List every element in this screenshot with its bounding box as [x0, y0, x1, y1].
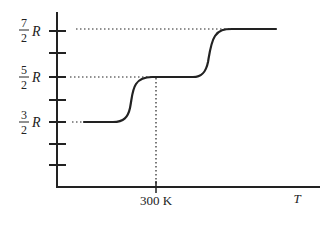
- guide-lines: [70, 29, 230, 186]
- y-label-3-2-r: 3 2 R: [19, 108, 41, 137]
- fraction-denominator: 2: [21, 78, 27, 92]
- fraction-numerator: 5: [21, 63, 27, 77]
- axes: [56, 12, 320, 188]
- r-symbol: R: [31, 115, 41, 130]
- y-label-7-2-r: 7 2 R: [19, 16, 41, 45]
- fraction-numerator: 7: [21, 16, 27, 30]
- x-tick-label-300k: 300 K: [140, 193, 173, 208]
- heat-capacity-diagram: 7 2 R 5 2 R 3 2 R 300 K T: [0, 0, 335, 226]
- y-label-5-2-r: 5 2 R: [19, 63, 41, 92]
- fraction-denominator: 2: [21, 123, 27, 137]
- heat-capacity-curve: [84, 29, 276, 122]
- x-axis-label-t: T: [293, 191, 301, 206]
- r-symbol: R: [31, 70, 41, 85]
- fraction-denominator: 2: [21, 31, 27, 45]
- fraction-numerator: 3: [21, 108, 27, 122]
- r-symbol: R: [31, 24, 41, 39]
